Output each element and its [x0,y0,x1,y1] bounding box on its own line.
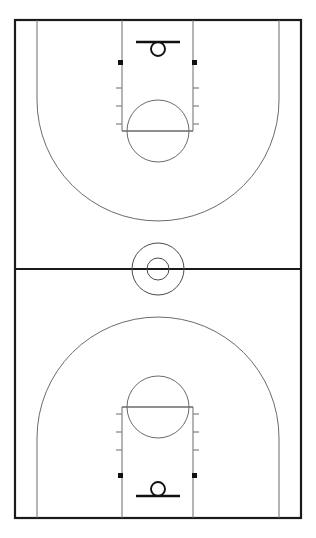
lane-block-right [192,473,197,478]
lane-block-left [118,60,123,65]
lane-block-left [118,473,123,478]
lane-block-right [192,60,197,65]
basketball-court-diagram [0,0,316,538]
